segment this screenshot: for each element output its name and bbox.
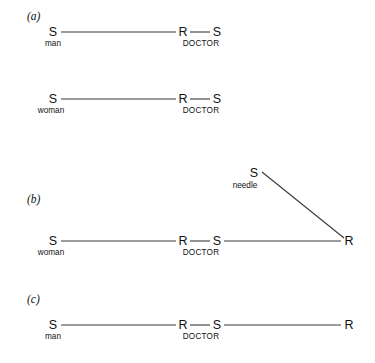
figure-container: (a) S man R DOCTOR S S woman R DOCTOR S … [0,0,375,363]
node-a2-s-woman: S [49,92,57,106]
role-a1-man: man [45,39,61,48]
node-a1-s-out: S [213,25,221,39]
node-a2-r-doctor: R [178,92,187,106]
node-b1-s-woman: S [49,234,57,248]
node-b-s-needle: S [250,166,258,180]
role-b-needle: needle [233,181,258,190]
panel-label-b: (b) [27,193,41,206]
diagram-svg: (a) S man R DOCTOR S S woman R DOCTOR S … [0,0,375,363]
role-c1-man: man [45,332,61,341]
role-b1-woman: woman [37,248,65,257]
role-a2-woman: woman [37,106,65,115]
node-c1-r-doctor: R [178,318,187,332]
node-b1-r-far: R [344,234,353,248]
role-b1-doctor: DOCTOR [183,248,220,257]
node-b1-r-doctor: R [178,234,187,248]
node-c1-s-out: S [213,318,221,332]
node-a1-s-man: S [49,25,57,39]
role-a2-doctor: DOCTOR [183,106,220,115]
edge-b-needle-to-r [262,172,344,238]
node-c1-r-far: R [344,318,353,332]
role-c1-doctor: DOCTOR [183,332,220,341]
node-a1-r-doctor: R [178,25,187,39]
node-a2-s-out: S [213,92,221,106]
role-a1-doctor: DOCTOR [183,39,220,48]
node-b1-s-out: S [213,234,221,248]
panel-label-a: (a) [27,10,41,23]
node-c1-s-man: S [49,318,57,332]
panel-label-c: (c) [27,293,40,306]
